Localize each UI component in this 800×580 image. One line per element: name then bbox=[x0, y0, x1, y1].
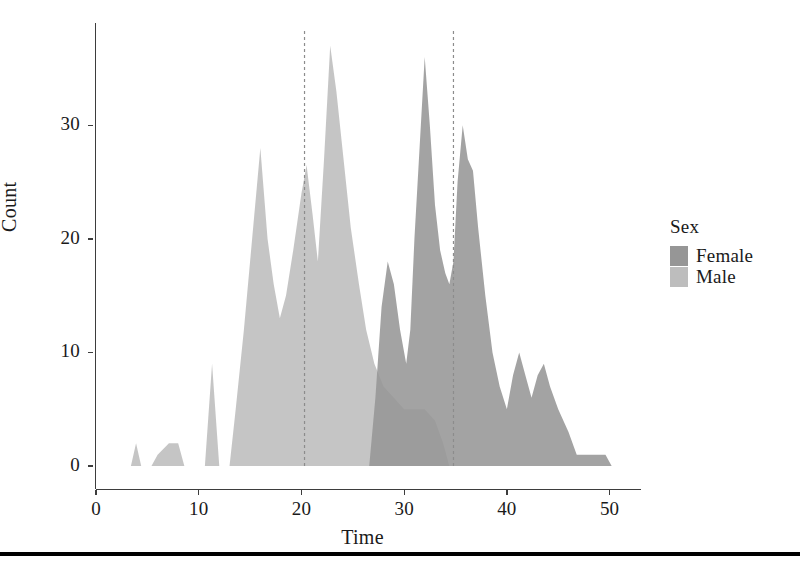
y-tick-20 bbox=[88, 238, 93, 239]
x-tick-label-50: 50 bbox=[585, 498, 635, 520]
x-tick-0 bbox=[95, 490, 96, 495]
legend-title: Sex bbox=[670, 216, 753, 238]
legend-label-female: Female bbox=[696, 246, 753, 266]
x-tick-label-30: 30 bbox=[379, 498, 429, 520]
y-tick-label-0: 0 bbox=[40, 454, 80, 476]
x-axis-title: Time bbox=[0, 526, 725, 549]
plot-area bbox=[96, 23, 625, 466]
y-tick-0 bbox=[88, 465, 93, 466]
x-tick-10 bbox=[198, 490, 199, 495]
x-tick-label-10: 10 bbox=[174, 498, 224, 520]
chart-figure: 0102030 01020304050 Count Time Sex Femal… bbox=[0, 0, 800, 580]
y-tick-label-20: 20 bbox=[40, 227, 80, 249]
x-axis-line bbox=[96, 489, 641, 490]
x-tick-50 bbox=[609, 490, 610, 495]
y-axis-title: Count bbox=[0, 182, 21, 232]
legend-items: FemaleMale bbox=[670, 245, 753, 287]
legend-swatch-female bbox=[670, 246, 688, 266]
x-tick-label-40: 40 bbox=[482, 498, 532, 520]
area-chart-canvas bbox=[96, 23, 625, 466]
legend-item-female[interactable]: Female bbox=[670, 245, 753, 266]
legend: Sex FemaleMale bbox=[670, 216, 753, 287]
series-group bbox=[131, 46, 612, 466]
y-tick-label-10: 10 bbox=[40, 340, 80, 362]
legend-label-male: Male bbox=[696, 267, 736, 287]
y-tick-label-30: 30 bbox=[40, 113, 80, 135]
x-tick-40 bbox=[506, 490, 507, 495]
bottom-divider-rule bbox=[0, 552, 800, 556]
x-tick-label-0: 0 bbox=[71, 498, 121, 520]
x-tick-20 bbox=[301, 490, 302, 495]
x-tick-30 bbox=[404, 490, 405, 495]
y-tick-30 bbox=[88, 125, 93, 126]
y-tick-10 bbox=[88, 352, 93, 353]
area-series-female bbox=[369, 57, 611, 466]
y-axis-line bbox=[95, 23, 96, 489]
legend-item-male[interactable]: Male bbox=[670, 266, 753, 287]
legend-swatch-male bbox=[670, 267, 688, 287]
x-tick-label-20: 20 bbox=[276, 498, 326, 520]
